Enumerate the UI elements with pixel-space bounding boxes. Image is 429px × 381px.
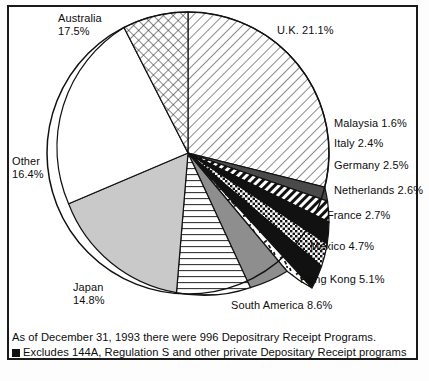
- label-malaysia: Malaysia 1.6%: [334, 117, 407, 130]
- label-italy: Italy 2.4%: [334, 137, 383, 150]
- figure-caption: As of December 31, 1993 there were 996 D…: [12, 330, 412, 359]
- label-japan-line2: 14.8%: [73, 294, 105, 307]
- label-australia-line1: Australia: [58, 12, 102, 25]
- label-other-line1: Other: [12, 155, 40, 168]
- label-mexico: Mexico 4.7%: [310, 240, 374, 253]
- pie-chart-figure: Australia 17.5% U.K. 21.1% Malaysia 1.6%…: [0, 0, 429, 381]
- label-germany: Germany 2.5%: [334, 159, 409, 172]
- label-uk: U.K. 21.1%: [277, 24, 334, 37]
- black-square-bullet-icon: [12, 349, 20, 357]
- label-france: France 2.7%: [327, 209, 390, 222]
- label-japan-line1: Japan: [73, 281, 103, 294]
- caption-line-2-text: Excludes 144A, Regulation S and other pr…: [23, 346, 407, 358]
- pie-slices: [47, 12, 329, 295]
- label-southamerica: South America 8.6%: [231, 299, 332, 312]
- caption-line-1: As of December 31, 1993 there were 996 D…: [12, 330, 412, 345]
- label-hongkong: Hong Kong 5.1%: [300, 273, 385, 286]
- label-other-line2: 16.4%: [12, 168, 44, 181]
- label-australia-line2: 17.5%: [58, 25, 90, 38]
- label-netherlands: Netherlands 2.6%: [334, 184, 423, 197]
- caption-line-2: Excludes 144A, Regulation S and other pr…: [12, 345, 412, 360]
